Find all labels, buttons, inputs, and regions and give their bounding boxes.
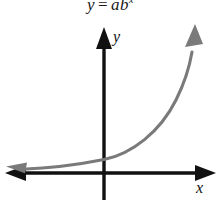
- exponential-curve: [22, 52, 192, 169]
- y-axis-up-arrowhead: [96, 27, 112, 49]
- graph-plot-area: [0, 0, 221, 204]
- x-axis-label: x: [196, 180, 203, 196]
- curve-right-arrowhead: [185, 24, 203, 47]
- y-axis-label: y: [113, 29, 120, 45]
- exponential-growth-graph: y=abx y x: [0, 0, 221, 204]
